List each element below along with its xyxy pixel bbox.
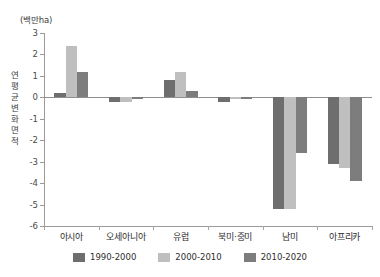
y-axis-tick-labels: 3210-1-2-3-4-5-6 (8, 33, 38, 226)
bar (120, 97, 131, 101)
bar (241, 97, 252, 99)
y-axis-tick-label: -3 (12, 156, 38, 166)
x-axis-category-label: 남미 (282, 230, 298, 243)
plot-area (44, 33, 372, 226)
bar (230, 97, 241, 99)
category-separator (99, 226, 100, 230)
y-axis-tick-label: 2 (12, 49, 38, 59)
category-separator (153, 226, 154, 230)
bar (186, 91, 197, 97)
category-separator (263, 226, 264, 230)
y-axis-tick-label: -6 (12, 221, 38, 231)
y-axis-tick-label: -5 (12, 199, 38, 209)
legend-item[interactable]: 2000-2010 (158, 252, 221, 262)
bar (339, 97, 350, 168)
legend-swatch (73, 253, 85, 262)
legend-item[interactable]: 1990-2000 (73, 252, 136, 262)
bar-chart: (백만ha) 연 평균변화면적 3210-1-2-3-4-5-6 아시아오세아니… (0, 0, 380, 277)
y-axis-tick-label: 1 (12, 70, 38, 80)
y-axis-tick (40, 33, 44, 34)
bar (296, 97, 307, 153)
y-axis-tick (40, 162, 44, 163)
bar (66, 46, 77, 97)
y-axis-tick-label: 3 (12, 28, 38, 38)
bar (175, 72, 186, 98)
category-separator (372, 226, 373, 230)
legend: 1990-20002000-20102010-2020 (0, 252, 380, 262)
y-axis-line (44, 33, 45, 226)
category-separator (317, 226, 318, 230)
bar (109, 97, 120, 101)
bar (328, 97, 339, 163)
category-separator (44, 226, 45, 230)
y-axis-tick (40, 97, 44, 98)
y-axis-tick (40, 140, 44, 141)
y-axis-tick (40, 54, 44, 55)
x-axis-category-label: 오세아니아 (106, 230, 145, 243)
legend-label: 2000-2010 (175, 252, 221, 262)
bar (218, 97, 229, 101)
x-axis-category-label: 아시아 (60, 230, 83, 243)
y-axis-tick (40, 205, 44, 206)
y-axis-tick-label: 0 (12, 92, 38, 102)
bar (132, 97, 143, 99)
y-axis-tick-label: -4 (12, 178, 38, 188)
bar (284, 97, 295, 209)
bar (77, 72, 88, 98)
bar (164, 80, 175, 97)
x-axis-category-label: 아프리카 (329, 230, 360, 243)
y-axis-tick (40, 119, 44, 120)
legend-swatch (244, 253, 256, 262)
x-axis-category-label: 북미·중미 (218, 230, 252, 243)
legend-label: 2010-2020 (261, 252, 307, 262)
legend-label: 1990-2000 (90, 252, 136, 262)
y-axis-tick-label: -1 (12, 113, 38, 123)
legend-item[interactable]: 2010-2020 (244, 252, 307, 262)
zero-line (44, 97, 372, 98)
bar (350, 97, 361, 181)
category-separator (208, 226, 209, 230)
legend-swatch (158, 253, 170, 262)
y-axis-tick (40, 76, 44, 77)
bar (273, 97, 284, 209)
x-axis-category-label: 유럽 (173, 230, 189, 243)
y-axis-tick (40, 183, 44, 184)
bar (54, 93, 65, 97)
y-axis-tick-label: -2 (12, 135, 38, 145)
unit-caption: (백만ha) (20, 13, 52, 25)
